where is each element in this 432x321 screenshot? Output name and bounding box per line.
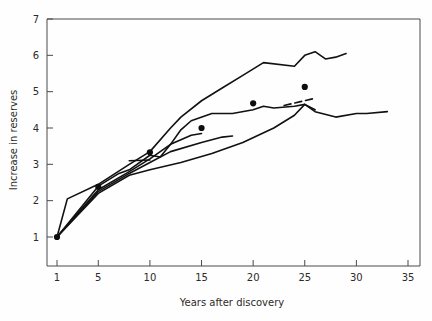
- x-tick-label-10: 10: [144, 272, 157, 283]
- marker-point-20: [250, 100, 256, 106]
- y-tick-label-2: 2: [33, 195, 39, 206]
- axes: [47, 19, 420, 266]
- x-tick-label-20: 20: [247, 272, 260, 283]
- x-tick-label-25: 25: [298, 272, 311, 283]
- x-tick-label-1: 1: [54, 272, 60, 283]
- series-dashed-segment-upper: [284, 98, 315, 105]
- marker-point-1: [54, 234, 60, 240]
- marker-point-10: [147, 149, 153, 155]
- y-tick-label-4: 4: [33, 123, 39, 134]
- y-tick-label-5: 5: [33, 86, 39, 97]
- marker-point-5: [95, 184, 101, 190]
- axis-frame-top-right: [47, 19, 420, 266]
- y-tick-label-7: 7: [33, 14, 39, 25]
- series-short-curve-b: [57, 136, 233, 237]
- marker-point-15: [198, 125, 204, 131]
- x-tick-label-15: 15: [195, 272, 208, 283]
- y-tick-label-3: 3: [33, 159, 39, 170]
- chart-plot-area: 123456715101520253035 Years after discov…: [0, 0, 432, 321]
- x-axis-title: Years after discovery: [179, 297, 285, 308]
- axis-spines: [47, 19, 420, 266]
- series-upper-envelope: [57, 52, 346, 237]
- tick-marks: [47, 19, 408, 266]
- y-tick-label-1: 1: [33, 232, 39, 243]
- x-tick-label-35: 35: [402, 272, 415, 283]
- marker-point-25: [302, 84, 308, 90]
- x-tick-label-5: 5: [95, 272, 101, 283]
- series-short-dash-segment-mid: [129, 160, 150, 161]
- tick-labels: 123456715101520253035: [33, 14, 415, 284]
- series-second-curve: [57, 104, 387, 237]
- data-series: [57, 52, 387, 237]
- chart-figure: 123456715101520253035 Years after discov…: [0, 0, 432, 321]
- y-tick-label-6: 6: [33, 50, 39, 61]
- y-axis-title: Increase in reserves: [8, 90, 19, 191]
- x-tick-label-30: 30: [350, 272, 363, 283]
